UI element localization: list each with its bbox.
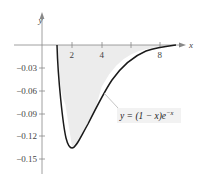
y-axis-label: y [38, 15, 43, 25]
label-leader-line [104, 93, 118, 108]
y-tick-label-0.03: −0.03 [16, 63, 37, 73]
shaded-region [57, 45, 175, 148]
x-axis-label: x [188, 40, 193, 50]
y-tick-label-0.06: −0.06 [16, 86, 37, 96]
y-tick-label-0.12: −0.12 [16, 131, 37, 141]
x-tick-label-8: 8 [158, 50, 163, 60]
equation-label: y = (1 − x)e−x [119, 109, 173, 122]
y-tick-label-0.09: −0.09 [16, 109, 37, 119]
x-axis-arrow-icon [179, 43, 186, 48]
chart: x y 2 4 8 −0.03 −0.06 −0.09 −0.12 −0.15 … [0, 0, 199, 174]
y-tick-label-0.15: −0.15 [16, 154, 37, 164]
x-tick-label-4: 4 [100, 50, 105, 60]
x-tick-label-2: 2 [70, 50, 75, 60]
